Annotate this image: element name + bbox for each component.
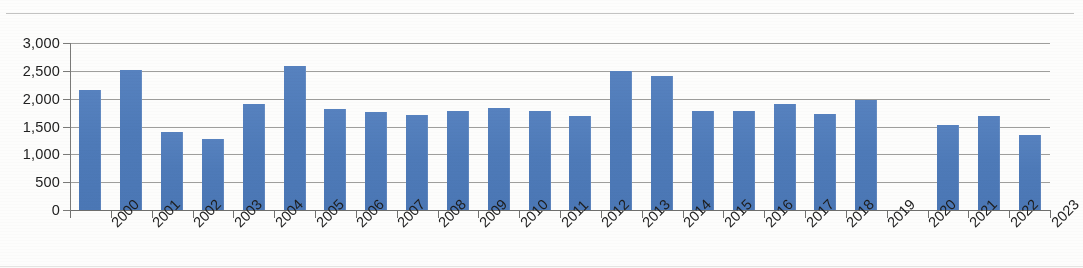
bar-2000[interactable] (79, 90, 101, 210)
x-axis-tick (315, 211, 316, 218)
y-axis-tick-label: 2,000 (2, 91, 60, 107)
x-axis-label-2009: 2009 (476, 219, 487, 230)
y-axis-tick-label: 500 (2, 174, 60, 190)
x-axis-tick (438, 211, 439, 218)
y-axis-tick (63, 127, 71, 128)
bar-2014[interactable] (651, 76, 673, 210)
y-axis-tick-label: 1,000 (2, 146, 60, 162)
x-axis-label-2016: 2016 (762, 219, 773, 230)
bar-2019[interactable] (855, 100, 877, 210)
x-axis-tick (560, 211, 561, 218)
x-axis-label-2019: 2019 (884, 219, 895, 230)
y-axis-tick-label: 3,000 (2, 35, 60, 51)
x-axis-label-2022: 2022 (1007, 219, 1018, 230)
x-axis-label-2017: 2017 (803, 219, 814, 230)
bar-2004[interactable] (243, 104, 265, 210)
x-axis-label-2021: 2021 (966, 219, 977, 230)
x-axis-label-2003: 2003 (231, 219, 242, 230)
bar-2008[interactable] (406, 115, 428, 210)
top-border-rule (6, 13, 1074, 14)
x-axis-label-2007: 2007 (394, 219, 405, 230)
x-axis-tick (397, 211, 398, 218)
x-axis-tick (519, 211, 520, 218)
x-axis-label-2014: 2014 (680, 219, 691, 230)
x-axis-label-2000: 2000 (108, 219, 119, 230)
bar-2016[interactable] (733, 111, 755, 210)
bar-2011[interactable] (529, 111, 551, 210)
x-axis-label-2008: 2008 (435, 219, 446, 230)
bar-series (70, 43, 1050, 210)
y-axis-tick (63, 43, 71, 44)
bar-2017[interactable] (774, 104, 796, 210)
bar-chart: 3,0002,5002,0001,5001,0005000 2000200120… (0, 0, 1083, 268)
x-axis-label-2010: 2010 (517, 219, 528, 230)
x-axis-tick (601, 211, 602, 218)
x-axis-tick (70, 211, 71, 218)
x-axis-tick (1050, 211, 1051, 218)
x-axis-tick (928, 211, 929, 218)
y-axis-tick (63, 99, 71, 100)
x-axis-tick (642, 211, 643, 218)
x-axis-label-2018: 2018 (843, 219, 854, 230)
x-axis-tick (193, 211, 194, 218)
x-axis-tick (887, 211, 888, 218)
y-axis-tick-label: 2,500 (2, 63, 60, 79)
y-axis-tick (63, 182, 71, 183)
y-axis-tick (63, 154, 71, 155)
x-axis-label-2012: 2012 (598, 219, 609, 230)
x-axis-label-2015: 2015 (721, 219, 732, 230)
bar-2007[interactable] (365, 112, 387, 210)
x-axis-tick (274, 211, 275, 218)
bar-2015[interactable] (692, 111, 714, 210)
bar-2006[interactable] (324, 109, 346, 210)
x-axis-tick (968, 211, 969, 218)
x-axis-tick (805, 211, 806, 218)
x-axis-tick (356, 211, 357, 218)
bar-2001[interactable] (120, 70, 142, 210)
x-axis-tick (723, 211, 724, 218)
x-axis-tick (152, 211, 153, 218)
bar-2013[interactable] (610, 71, 632, 210)
x-axis-tick (1009, 211, 1010, 218)
x-axis-label-2011: 2011 (558, 219, 569, 230)
bar-2009[interactable] (447, 111, 469, 210)
x-axis-label-2005: 2005 (313, 219, 324, 230)
x-axis-labels: 2000200120022003200420052006200720082009… (70, 213, 1051, 268)
x-axis-tick (764, 211, 765, 218)
x-axis-tick (233, 211, 234, 218)
x-axis-label-2002: 2002 (190, 219, 201, 230)
bar-2010[interactable] (488, 108, 510, 210)
x-axis-tick (111, 211, 112, 218)
x-axis-label-2006: 2006 (353, 219, 364, 230)
x-axis-label-2001: 2001 (149, 219, 160, 230)
x-axis-label-2020: 2020 (925, 219, 936, 230)
x-axis-tick (846, 211, 847, 218)
x-axis-tick (478, 211, 479, 218)
y-axis-tick (63, 71, 71, 72)
bottom-border-rule (0, 266, 1083, 267)
y-axis-tick-label: 1,500 (2, 119, 60, 135)
y-axis-labels: 3,0002,5002,0001,5001,0005000 (0, 0, 60, 268)
x-axis-label-2004: 2004 (272, 219, 283, 230)
x-axis-label-2023: 2023 (1048, 219, 1059, 230)
x-axis-tick (683, 211, 684, 218)
bar-2005[interactable] (284, 66, 306, 210)
bar-2012[interactable] (569, 116, 591, 210)
x-axis-label-2013: 2013 (639, 219, 650, 230)
y-axis-tick-label: 0 (2, 202, 60, 218)
